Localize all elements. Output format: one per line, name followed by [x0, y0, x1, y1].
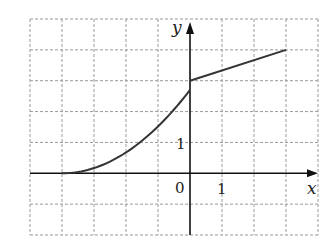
line-right-piece: [190, 50, 286, 81]
y-axis-arrow-icon: [186, 22, 194, 34]
x-axis-arrow-icon: [307, 169, 318, 177]
origin-label: 0: [175, 179, 185, 197]
x-axis-label: x: [307, 178, 317, 198]
x-tick-1-label: 1: [217, 180, 227, 198]
function-graph: y x 0 1 1: [0, 0, 335, 250]
y-axis-label: y: [171, 17, 182, 37]
y-tick-1-label: 1: [176, 135, 186, 153]
grid-lines: [30, 19, 318, 235]
